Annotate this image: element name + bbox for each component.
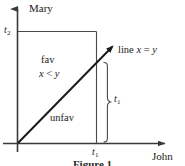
line-label-operator: =: [141, 44, 152, 55]
y-tick-label-t2: t2: [4, 25, 11, 37]
condition-rhs: y: [55, 68, 60, 79]
y-tick-subscript: 2: [7, 29, 11, 37]
figure-diagram: Mary John t2 t1 fav x < y unfav line x =…: [0, 0, 185, 166]
brace-label-t1: t1: [114, 94, 121, 106]
region-condition-favorable: x < y: [39, 69, 60, 80]
line-label-prefix: line: [118, 44, 136, 55]
figure-caption: Figure 1: [0, 158, 185, 166]
line-label-rhs: y: [152, 44, 157, 55]
condition-lhs: x: [39, 68, 44, 79]
line-label: line x = y: [118, 45, 157, 56]
y-axis-label: Mary: [29, 3, 53, 14]
region-label-unfavorable: unfav: [50, 113, 74, 124]
brace-subscript: 1: [117, 98, 121, 106]
brace-t1: [104, 63, 111, 143]
line-x-equals-y: [18, 47, 112, 143]
region-label-favorable: fav: [41, 55, 54, 66]
condition-operator: <: [46, 68, 52, 79]
figure-canvas: [0, 0, 185, 166]
